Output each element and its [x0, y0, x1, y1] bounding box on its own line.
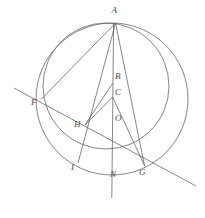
point-label-B: B	[115, 72, 121, 81]
geometry-canvas	[0, 0, 205, 218]
point-label-G: G	[139, 168, 146, 177]
segment-c-g	[113, 97, 145, 166]
transversal-line	[14, 88, 196, 186]
point-label-O: O	[115, 114, 122, 123]
point-label-I: I	[71, 163, 74, 172]
point-label-N: N	[110, 170, 116, 179]
point-label-F: F	[31, 98, 37, 107]
chord-a-f	[41, 23, 116, 100]
chord-a-i	[78, 23, 116, 163]
point-label-C: C	[115, 88, 121, 97]
point-label-A: A	[112, 6, 118, 15]
segment-c-h	[85, 97, 113, 125]
point-label-H: H	[74, 120, 81, 129]
segment-b-h	[85, 83, 113, 125]
geometry-figure: A B C O F H I N G	[0, 0, 205, 218]
